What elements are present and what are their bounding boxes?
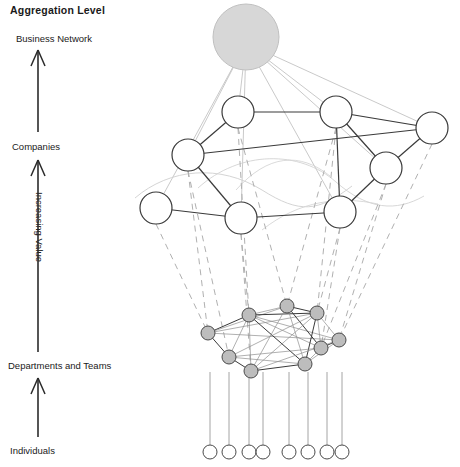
- company-node[interactable]: [222, 96, 254, 128]
- department-node[interactable]: [332, 333, 346, 347]
- department-node[interactable]: [222, 350, 236, 364]
- company-node[interactable]: [172, 139, 204, 171]
- individual-node[interactable]: [222, 445, 236, 459]
- company-node[interactable]: [140, 192, 172, 224]
- individual-node[interactable]: [301, 445, 315, 459]
- company-to-department-link: [156, 224, 208, 333]
- network-cloud-link-group: [156, 43, 432, 218]
- company-node-group: [140, 96, 448, 234]
- department-edge: [249, 315, 251, 371]
- company-node[interactable]: [416, 112, 448, 144]
- company-node[interactable]: [370, 152, 402, 184]
- department-node[interactable]: [201, 326, 215, 340]
- department-edge: [229, 357, 305, 364]
- individual-node[interactable]: [242, 445, 256, 459]
- network-to-company-link: [246, 43, 340, 212]
- department-node[interactable]: [298, 357, 312, 371]
- company-to-department-link: [317, 228, 340, 313]
- department-node[interactable]: [314, 341, 328, 355]
- company-node[interactable]: [324, 196, 356, 228]
- department-node[interactable]: [280, 299, 294, 313]
- company-node[interactable]: [320, 96, 352, 128]
- company-node[interactable]: [225, 202, 257, 234]
- department-edge: [251, 364, 305, 371]
- individual-node-group: [203, 445, 349, 459]
- department-node[interactable]: [310, 306, 324, 320]
- aggregation-axis: [31, 50, 45, 437]
- individual-node[interactable]: [320, 445, 334, 459]
- department-node[interactable]: [242, 308, 256, 322]
- individual-node[interactable]: [256, 445, 270, 459]
- department-edge: [249, 315, 305, 364]
- individual-stem-group: [210, 372, 342, 445]
- individual-node[interactable]: [335, 445, 349, 459]
- network-diagram-svg: [0, 0, 460, 467]
- network-cloud-icon: [213, 4, 279, 70]
- individual-node[interactable]: [203, 445, 217, 459]
- company-edge: [188, 128, 432, 155]
- company-to-department-link: [188, 171, 208, 333]
- diagram-canvas: Aggregation Level Business Network Compa…: [0, 0, 460, 467]
- department-node[interactable]: [244, 364, 258, 378]
- individual-node[interactable]: [282, 445, 296, 459]
